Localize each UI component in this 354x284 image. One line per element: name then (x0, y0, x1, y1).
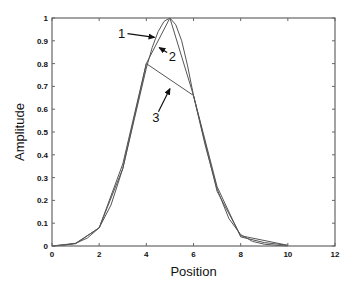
x-axis-label: Position (170, 264, 216, 279)
series-line-3 (52, 64, 288, 246)
x-tick-label: 10 (283, 250, 292, 259)
y-tick-label: 0.9 (37, 37, 49, 46)
annotation-label-1: 1 (118, 26, 125, 41)
axes-box (52, 18, 335, 246)
annotation-label-3: 3 (152, 110, 159, 125)
annotations: 123 (118, 26, 176, 125)
amplitude-position-chart: 024681012 00.10.20.30.40.50.60.70.80.91 … (0, 0, 354, 284)
y-tick-label: 0 (44, 242, 49, 251)
x-tick-label: 6 (191, 250, 196, 259)
x-tick-label: 0 (50, 250, 55, 259)
x-tick-label: 8 (238, 250, 243, 259)
y-tick-label: 0.6 (37, 105, 49, 114)
y-tick-label: 0.3 (37, 174, 49, 183)
y-axis-label: Amplitude (12, 103, 27, 161)
y-tick-label: 1 (44, 14, 49, 23)
y-tick-label: 0.8 (37, 60, 49, 69)
x-tick-label: 4 (144, 250, 149, 259)
y-tick-label: 0.4 (37, 151, 49, 160)
y-axis-ticks: 00.10.20.30.40.50.60.70.80.91 (37, 14, 335, 251)
annotation-arrow-icon (128, 34, 155, 38)
y-tick-label: 0.7 (37, 82, 49, 91)
y-tick-label: 0.5 (37, 128, 49, 137)
x-tick-label: 12 (331, 250, 340, 259)
y-tick-label: 0.2 (37, 196, 49, 205)
x-tick-label: 2 (97, 250, 102, 259)
annotation-label-2: 2 (169, 49, 176, 64)
x-axis-ticks: 024681012 (50, 18, 340, 259)
annotation-arrow-icon (159, 48, 167, 53)
annotation-arrow-icon (158, 89, 169, 112)
y-tick-label: 0.1 (37, 219, 49, 228)
